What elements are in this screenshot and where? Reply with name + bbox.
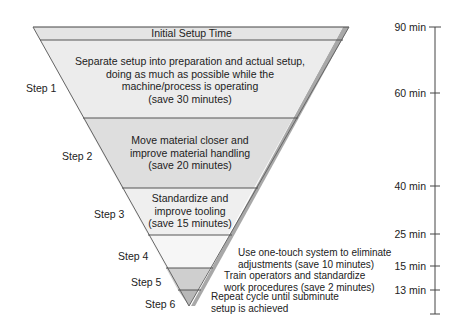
step-4-label: Step 4: [118, 250, 148, 262]
step-1-label: Step 1: [26, 82, 56, 94]
tick-label-60: 60 min: [366, 87, 426, 99]
step-1-description: Separate setup into preparation and actu…: [60, 55, 320, 105]
step-2-description: Move material closer and improve materia…: [110, 134, 270, 172]
step-5-description: Train operators and standardize work pro…: [224, 270, 375, 293]
tick-label-15: 15 min: [366, 260, 426, 272]
funnel-header: Initial Setup Time: [40, 27, 343, 40]
step-3-label: Step 3: [94, 208, 124, 220]
setup-reduction-funnel-diagram: Initial Setup Time Separate setup into p…: [0, 0, 468, 336]
step-5-label: Step 5: [131, 276, 161, 288]
tick-label-40: 40 min: [366, 180, 426, 192]
step-3-description: Standardize and improve tooling (save 15…: [140, 192, 240, 230]
tick-label-90: 90 min: [366, 21, 426, 33]
step-2-label: Step 2: [62, 150, 92, 162]
step-6-label: Step 6: [145, 298, 175, 310]
tick-label-13: 13 min: [366, 284, 426, 296]
step-6-description: Repeat cycle until subminute setup is ac…: [211, 291, 339, 314]
tick-label-25: 25 min: [366, 228, 426, 240]
